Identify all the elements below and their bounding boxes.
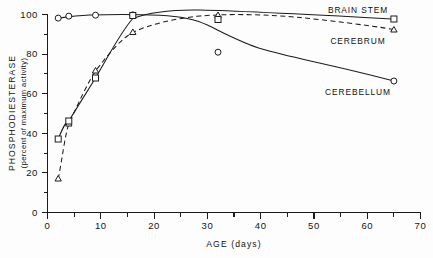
y-axis-title-secondary: (percent of maximum activity)	[19, 58, 28, 169]
x-tick-label: 30	[202, 220, 214, 231]
x-tick-label: 40	[255, 220, 267, 231]
x-tick-label: 70	[415, 220, 427, 231]
x-tick-label: 0	[45, 220, 51, 231]
data-point	[215, 49, 221, 55]
y-axis-title-primary: PHOSPHODIESTERASE	[7, 55, 17, 171]
data-point	[391, 78, 397, 84]
brain-stem-markers	[55, 13, 397, 143]
x-axis-minor-ticks	[74, 213, 394, 217]
data-point	[391, 16, 397, 22]
series-label-cerebrum: CEREBRUM	[330, 36, 385, 46]
brain-stem-line	[58, 10, 394, 139]
series-brain-stem	[55, 10, 397, 142]
data-point	[66, 118, 72, 124]
y-tick-label: 0	[32, 207, 38, 218]
x-axis-title: AGE (days)	[206, 239, 261, 249]
x-tick-label: 50	[308, 220, 320, 231]
series-label-brain-stem: BRAIN STEM	[328, 5, 388, 15]
series-cerebellum	[55, 12, 397, 84]
y-tick-label: 100	[20, 9, 38, 20]
x-tick-label: 60	[361, 220, 373, 231]
data-point	[215, 17, 221, 23]
chart-figure: 0 20 40 60 80 100	[0, 0, 433, 258]
x-axis-tick-labels: 0 10 20 30 40 50 60 70	[45, 220, 427, 231]
data-point	[93, 12, 99, 18]
cerebellum-markers	[55, 12, 397, 84]
x-tick-label: 20	[148, 220, 160, 231]
phosphodiesterase-vs-age-line-chart: 0 20 40 60 80 100	[0, 0, 433, 258]
data-point	[93, 75, 99, 81]
data-point	[55, 176, 61, 182]
data-point	[55, 136, 61, 142]
data-point	[130, 13, 136, 19]
cerebellum-line	[58, 14, 394, 81]
data-point	[66, 13, 72, 19]
series-label-cerebellum: CEREBELLUM	[325, 87, 391, 97]
y-axis-minor-ticks	[44, 34, 48, 192]
data-point	[55, 15, 61, 21]
x-tick-label: 10	[95, 220, 107, 231]
